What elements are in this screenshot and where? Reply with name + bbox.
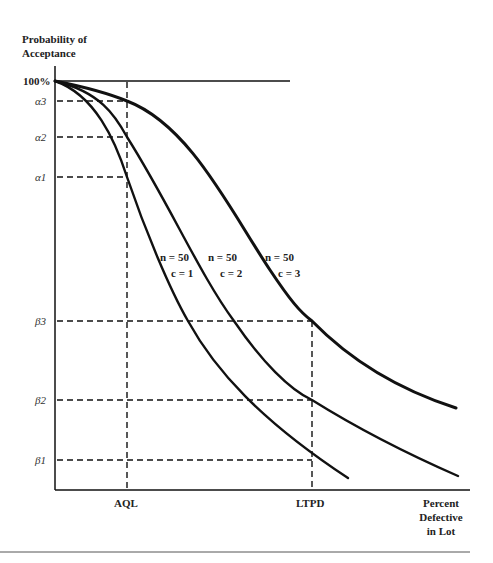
curve-c3 xyxy=(55,81,456,408)
curve-c2-n-label: n = 50 xyxy=(208,251,237,263)
y-label-alpha3: α3 xyxy=(35,95,47,107)
x-axis-label-line3: in Lot xyxy=(427,525,456,537)
y-label-beta1: β1 xyxy=(34,454,46,466)
curve-c3-c-label: c = 3 xyxy=(278,267,301,279)
x-label-ltpd: LTPD xyxy=(296,497,324,509)
x-axis-label-line1: Percent xyxy=(423,497,459,509)
y-label-beta2: β2 xyxy=(34,394,46,406)
x-axis-label-line2: Defective xyxy=(419,511,462,523)
oc-curve-chart: Probability of Acceptance 100% α3 α2 α1 … xyxy=(0,0,493,563)
x-label-aql: AQL xyxy=(114,497,138,509)
oc-curves xyxy=(55,81,458,478)
y-label-alpha2: α2 xyxy=(35,131,47,143)
y-axis-label-line1: Probability of xyxy=(22,33,87,45)
y-label-alpha1: α1 xyxy=(35,171,46,183)
curve-c1-n-label: n = 50 xyxy=(160,251,189,263)
curve-c2 xyxy=(55,81,458,476)
y-label-beta3: β3 xyxy=(34,315,46,327)
curve-c1-c-label: c = 1 xyxy=(171,267,193,279)
curve-c1 xyxy=(55,81,348,478)
curve-c3-n-label: n = 50 xyxy=(265,251,294,263)
y-axis-label-line2: Acceptance xyxy=(22,47,76,59)
curve-c2-c-label: c = 2 xyxy=(220,267,243,279)
y-label-100: 100% xyxy=(23,75,51,87)
